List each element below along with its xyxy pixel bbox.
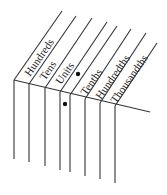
decimal-point-lower [63, 102, 67, 106]
decimal-point-upper [76, 72, 80, 76]
place-value-diagram: Hundreds Tens Units Tenths Hundredths Th… [0, 0, 167, 195]
